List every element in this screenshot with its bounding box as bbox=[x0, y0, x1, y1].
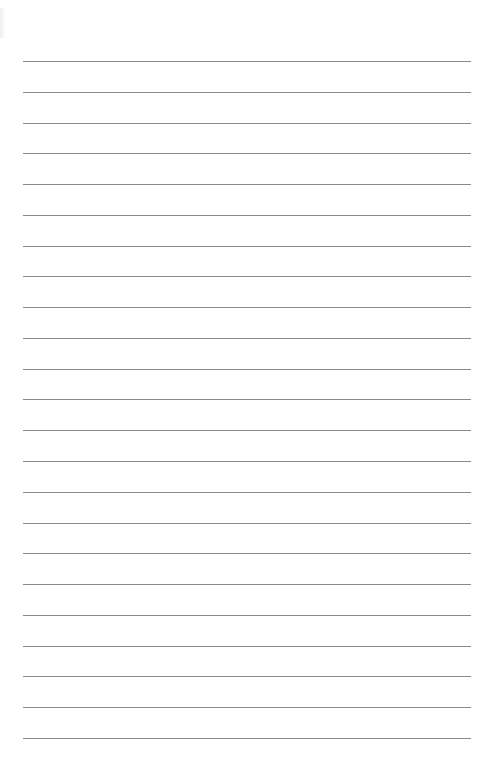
lined-paper-page bbox=[0, 0, 491, 769]
ruled-line bbox=[23, 215, 471, 216]
ruled-line bbox=[23, 430, 471, 431]
ruled-line bbox=[23, 123, 471, 124]
ruled-line bbox=[23, 584, 471, 585]
ruled-line bbox=[23, 276, 471, 277]
ruled-line bbox=[23, 707, 471, 708]
ruled-line bbox=[23, 61, 471, 62]
ruled-line bbox=[23, 553, 471, 554]
ruled-line bbox=[23, 184, 471, 185]
ruled-line bbox=[23, 523, 471, 524]
ruled-line bbox=[23, 461, 471, 462]
ruled-line bbox=[23, 153, 471, 154]
ruled-line bbox=[23, 615, 471, 616]
ruled-line bbox=[23, 492, 471, 493]
ruled-line bbox=[23, 399, 471, 400]
scan-edge-shadow bbox=[0, 8, 6, 38]
ruled-line bbox=[23, 738, 471, 739]
ruled-line bbox=[23, 338, 471, 339]
ruled-line bbox=[23, 646, 471, 647]
ruled-line bbox=[23, 246, 471, 247]
ruled-line bbox=[23, 676, 471, 677]
ruled-line bbox=[23, 369, 471, 370]
ruled-line bbox=[23, 92, 471, 93]
ruled-line bbox=[23, 307, 471, 308]
